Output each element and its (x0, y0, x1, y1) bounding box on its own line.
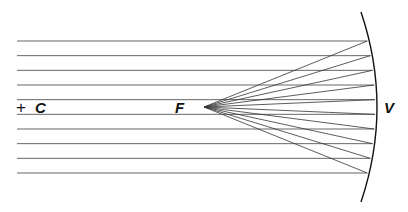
mirror-diagram: + C F V (0, 0, 408, 212)
reflected-rays (204, 41, 375, 173)
reflected-ray (204, 41, 367, 107)
focus-label-f: F (175, 99, 185, 116)
center-label-c: C (35, 99, 47, 116)
center-marker: + (16, 98, 26, 117)
concave-mirror (361, 12, 377, 202)
vertex-label-v: V (384, 99, 396, 116)
incident-rays (17, 41, 375, 173)
reflected-ray (204, 107, 367, 173)
